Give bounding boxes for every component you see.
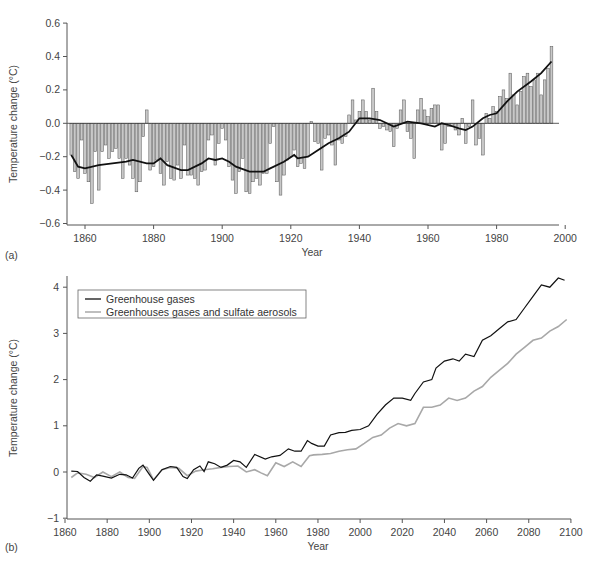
bar <box>221 123 224 128</box>
bar <box>104 123 107 145</box>
bar <box>379 123 382 128</box>
bar <box>84 123 87 173</box>
bar <box>187 123 190 175</box>
legend-label-greenhouse-aerosols: Greenhouses gases and sulfate aerosols <box>106 306 297 318</box>
panel-b-chart: −101234 18601880190019201940196019802000… <box>5 276 583 553</box>
bar <box>361 100 364 123</box>
panel-a-y-ticks: −0.6−0.4−0.20.00.20.40.6 <box>39 17 67 229</box>
bar <box>128 123 131 165</box>
bar <box>478 123 481 138</box>
bar <box>468 123 471 126</box>
bar <box>108 123 111 158</box>
bar <box>135 123 138 191</box>
panel-b-label: (b) <box>5 541 18 553</box>
panel-a-label: (a) <box>5 249 18 261</box>
bar <box>228 123 231 166</box>
bar <box>101 123 104 151</box>
bar <box>341 123 344 143</box>
x-tick-label: 2000 <box>554 232 578 244</box>
bar <box>145 110 148 123</box>
bar <box>80 123 83 140</box>
bar <box>368 120 371 123</box>
panel-a-bars <box>70 46 553 203</box>
bar <box>77 123 80 178</box>
y-tick-label: 4 <box>53 281 59 293</box>
legend-label-greenhouse-gases: Greenhouse gases <box>106 293 195 305</box>
bar <box>262 123 265 173</box>
bar <box>255 123 258 178</box>
bar <box>265 123 268 173</box>
bar <box>420 98 423 123</box>
bar <box>488 118 491 123</box>
y-tick-label: −0.2 <box>39 150 60 162</box>
bar <box>461 118 464 123</box>
bar <box>111 123 114 151</box>
x-tick-label: 1980 <box>306 526 330 538</box>
x-tick-label: 1900 <box>138 526 162 538</box>
bar <box>434 105 437 123</box>
bar <box>169 123 172 178</box>
bar <box>235 123 238 193</box>
bar <box>533 80 536 123</box>
bar <box>272 123 275 126</box>
bar <box>427 117 430 124</box>
bar <box>176 123 179 165</box>
bar <box>399 110 402 123</box>
panel-a-trend-line <box>71 62 551 172</box>
x-tick-label: 1880 <box>142 232 166 244</box>
bar <box>118 123 121 158</box>
bar <box>289 123 292 156</box>
bar <box>540 95 543 123</box>
bar <box>296 123 299 166</box>
legend: Greenhouse gases Greenhouses gases and s… <box>78 290 306 318</box>
panel-b-x-label: Year <box>307 540 329 552</box>
x-tick-label: 2080 <box>517 526 541 538</box>
bar <box>152 123 155 166</box>
bar <box>142 123 145 136</box>
bar <box>303 123 306 168</box>
bar <box>197 123 200 185</box>
bar <box>94 123 97 151</box>
bar <box>324 123 327 138</box>
bar <box>512 95 515 123</box>
bar <box>115 123 118 148</box>
bar <box>252 123 255 181</box>
bar <box>410 123 413 138</box>
bar <box>224 123 227 140</box>
series-greenhouse-aerosols-line <box>71 320 566 480</box>
panel-b-y-ticks: −101234 <box>47 281 67 524</box>
bar <box>526 73 529 123</box>
bar <box>403 100 406 123</box>
y-tick-label: 1 <box>53 419 59 431</box>
bar <box>543 80 546 123</box>
bar <box>159 123 162 173</box>
panel-a-x-ticks: 18601880190019201940196019802000 <box>73 225 577 244</box>
bar <box>550 46 553 123</box>
bar <box>193 123 196 178</box>
panel-b-y-label: Temperature change (°C) <box>7 339 19 457</box>
bar <box>132 123 135 178</box>
bar <box>279 123 282 195</box>
bar <box>70 123 73 155</box>
x-tick-label: 2060 <box>475 526 499 538</box>
bar <box>440 123 443 150</box>
bar <box>317 123 320 143</box>
bar <box>530 87 533 124</box>
y-tick-label: −0.4 <box>39 184 60 196</box>
bar <box>375 112 378 124</box>
panel-a-x-label: Year <box>301 246 323 258</box>
bar <box>214 123 217 165</box>
bar <box>536 73 539 123</box>
bar <box>248 123 251 193</box>
x-tick-label: 2020 <box>391 526 415 538</box>
bar <box>259 123 262 185</box>
bar <box>286 123 289 160</box>
bar <box>382 123 385 126</box>
y-tick-label: 0 <box>53 466 59 478</box>
y-tick-label: −1 <box>47 512 59 524</box>
y-tick-label: 0.6 <box>45 17 60 29</box>
x-tick-label: 2100 <box>559 526 583 538</box>
bar <box>241 123 244 158</box>
y-tick-label: 0.2 <box>45 83 60 95</box>
bar <box>163 123 166 185</box>
